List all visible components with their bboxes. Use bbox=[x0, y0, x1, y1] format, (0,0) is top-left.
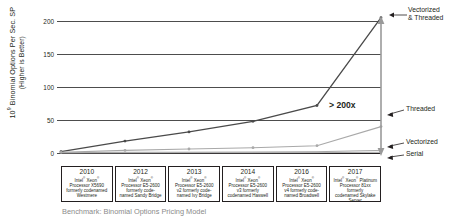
callout-arrow-serial bbox=[387, 155, 393, 160]
processor-box-2016: 2016 Intel® Xeon® Processor E5-2600 v4 f… bbox=[276, 166, 328, 202]
processor-family: Xeon bbox=[300, 178, 312, 183]
processor-year: 2014 bbox=[224, 168, 272, 176]
registered-mark-icon: ® bbox=[204, 176, 206, 180]
data-point bbox=[124, 149, 127, 152]
processor-brand: Intel bbox=[333, 178, 342, 183]
processor-box-2014: 2014 Intel® Xeon® Processor E5-2600 v3 f… bbox=[222, 166, 274, 202]
annotation-threaded: Threaded bbox=[406, 105, 435, 113]
data-point bbox=[124, 140, 127, 143]
speedup-label: > 200x bbox=[329, 100, 356, 110]
callout-arrow-vectorized bbox=[387, 144, 393, 149]
processor-brand: Intel bbox=[74, 178, 83, 183]
processor-family: Xeon bbox=[246, 178, 258, 183]
registered-mark-icon: ® bbox=[97, 176, 99, 180]
data-point bbox=[252, 146, 255, 149]
chart-root: 109 Binomial Options Per Sec. SP (Higher… bbox=[0, 0, 451, 223]
processor-tier: Platinum bbox=[358, 178, 377, 183]
processor-year: 2012 bbox=[117, 168, 165, 176]
processor-codename-l2: codenamed Haswell bbox=[224, 193, 272, 198]
processor-brand: Intel bbox=[128, 178, 137, 183]
benchmark-caption: Benchmark: Binomial Options Pricing Mode… bbox=[62, 207, 206, 216]
processor-legend-row: 2010 Intel® Xeon® Processor X5690 former… bbox=[61, 166, 381, 202]
data-point bbox=[316, 144, 319, 147]
processor-brand: Intel bbox=[289, 178, 298, 183]
processor-family: Xeon bbox=[85, 178, 97, 183]
registered-mark-icon: ® bbox=[151, 176, 153, 180]
processor-year: 2013 bbox=[170, 168, 218, 176]
processor-box-2010: 2010 Intel® Xeon® Processor X5690 former… bbox=[61, 166, 113, 202]
processor-codename-l2: named Ivy Bridge bbox=[170, 193, 218, 198]
data-point bbox=[252, 120, 255, 123]
processor-family: Xeon bbox=[139, 178, 151, 183]
processor-box-2017: 2017 Intel® Xeon® Platinum Processor 81x… bbox=[329, 166, 381, 202]
processor-codename-l2: Westmere bbox=[63, 193, 111, 198]
processor-box-2013: 2013 Intel® Xeon® Processor E5-2600 v2 f… bbox=[168, 166, 220, 202]
series-threaded-markers bbox=[60, 125, 383, 154]
series-threaded-line bbox=[61, 127, 381, 153]
series-vectorized-threaded-markers bbox=[60, 16, 383, 153]
data-point bbox=[316, 104, 319, 107]
series-vectorized-threaded-line bbox=[61, 18, 381, 152]
registered-mark-icon: ® bbox=[258, 176, 260, 180]
processor-brand: Intel bbox=[235, 178, 244, 183]
processor-family: Xeon bbox=[193, 178, 205, 183]
processor-box-2012: 2012 Intel® Xeon® Processor E5-2600 form… bbox=[115, 166, 167, 202]
annotation-vectorized: Vectorized bbox=[406, 138, 438, 146]
processor-year: 2017 bbox=[331, 168, 379, 176]
processor-model: Processor 81xx formerly bbox=[331, 183, 379, 193]
processor-year: 2016 bbox=[278, 168, 326, 176]
data-point bbox=[188, 131, 191, 134]
registered-mark-icon: ® bbox=[312, 176, 314, 180]
annotation-vectorized-threaded-l1: Vectorized bbox=[408, 6, 443, 14]
processor-codename-l2: named Sandy Bridge bbox=[117, 193, 165, 198]
data-point bbox=[188, 148, 191, 151]
processor-year: 2010 bbox=[63, 168, 111, 176]
annotation-vectorized-threaded-l2: & Threaded bbox=[408, 14, 443, 22]
annotation-vectorized-threaded: Vectorized & Threaded bbox=[408, 6, 443, 22]
processor-codename-l2: named Broadwell bbox=[278, 193, 326, 198]
processor-family: Xeon bbox=[344, 178, 356, 183]
processor-codename-l2: Server bbox=[331, 198, 379, 202]
callout-arrow-threaded bbox=[387, 112, 393, 117]
annotation-serial: Serial bbox=[406, 150, 423, 158]
callout-arrow-vectorized-threaded bbox=[389, 13, 394, 18]
series-serial-line bbox=[61, 152, 381, 153]
